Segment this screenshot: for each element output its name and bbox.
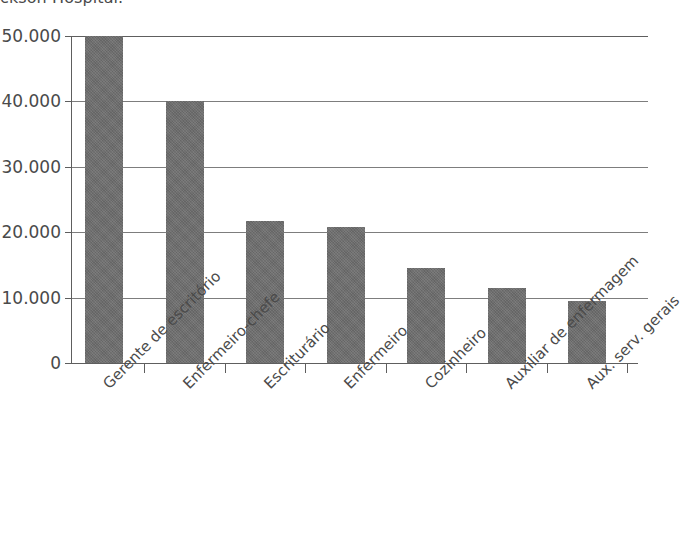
- x-tick-mark: [547, 363, 548, 373]
- y-tick-mark: [65, 363, 72, 364]
- bar[interactable]: [327, 227, 365, 363]
- y-axis-tick-label: 50.000: [2, 28, 61, 45]
- bar[interactable]: [166, 101, 204, 363]
- y-tick-mark: [65, 232, 72, 233]
- y-axis-tick-label: 40.000: [2, 93, 61, 110]
- x-tick-mark: [386, 363, 387, 373]
- bar[interactable]: [85, 36, 123, 363]
- y-axis-tick-label: 0: [50, 355, 61, 372]
- y-tick-mark: [65, 36, 72, 37]
- x-tick-mark: [466, 363, 467, 373]
- y-axis-tick-label: 10.000: [2, 289, 61, 306]
- bar[interactable]: [246, 221, 284, 363]
- y-axis-tick-label: 20.000: [2, 224, 61, 241]
- y-axis-tick-label: 30.000: [2, 158, 61, 175]
- gridline: [72, 101, 648, 102]
- x-tick-mark: [627, 363, 628, 373]
- y-tick-mark: [65, 298, 72, 299]
- y-tick-mark: [65, 167, 72, 168]
- gridline: [72, 167, 648, 168]
- x-tick-mark: [144, 363, 145, 373]
- bar[interactable]: [568, 301, 606, 363]
- bar[interactable]: [407, 268, 445, 363]
- y-tick-mark: [65, 101, 72, 102]
- x-tick-mark: [225, 363, 226, 373]
- plot-area: 010.00020.00030.00040.00050.000: [72, 36, 648, 363]
- x-axis-line: [71, 363, 638, 364]
- gridline: [72, 36, 648, 37]
- bar[interactable]: [488, 288, 526, 363]
- x-tick-mark: [305, 363, 306, 373]
- chart-title: ckson Hospital.: [0, 0, 123, 8]
